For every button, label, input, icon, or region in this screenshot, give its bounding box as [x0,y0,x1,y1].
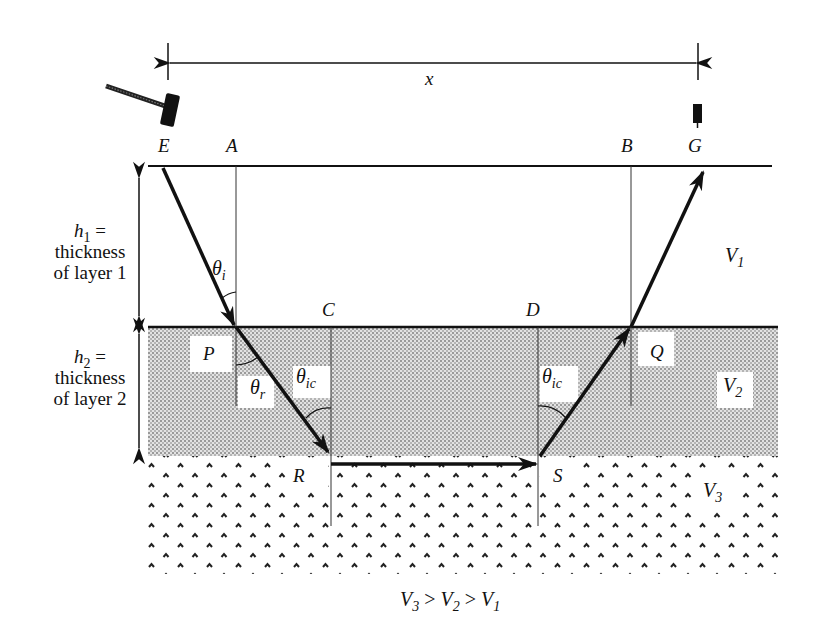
layer-3-region [148,456,778,574]
distance-label: x [424,68,434,89]
svg-text:of layer 1: of layer 1 [54,262,127,283]
svg-text:thickness: thickness [55,367,126,388]
ray-E-P [163,168,234,325]
point-E-label: E [157,135,170,156]
point-P-label: P [202,343,215,364]
velocity-relation-caption: V3 > V2 > V1 [400,588,500,614]
point-D-label: D [525,299,540,320]
ray-Q-G [631,172,703,327]
point-G-label: G [688,135,702,156]
point-A-label: A [224,135,238,156]
hammer-icon [106,86,180,127]
point-B-label: B [621,135,633,156]
layer-1-thickness-label: h1 = thickness of layer 1 [54,220,127,283]
svg-text:of layer 2: of layer 2 [54,388,127,409]
point-R-label: R [292,465,305,486]
point-C-label: C [322,299,335,320]
svg-text:thickness: thickness [55,241,126,262]
refraction-diagram: x E A B G C D P Q R S θi θr θic θic V1 V… [0,0,821,632]
velocity-V1-label: V1 [725,244,744,270]
angle-arc-incident [222,292,236,298]
point-S-label: S [553,465,563,486]
point-Q-label: Q [650,341,664,362]
geophone-icon [693,104,702,128]
layer-2-thickness-label: h2 = thickness of layer 2 [54,346,127,409]
